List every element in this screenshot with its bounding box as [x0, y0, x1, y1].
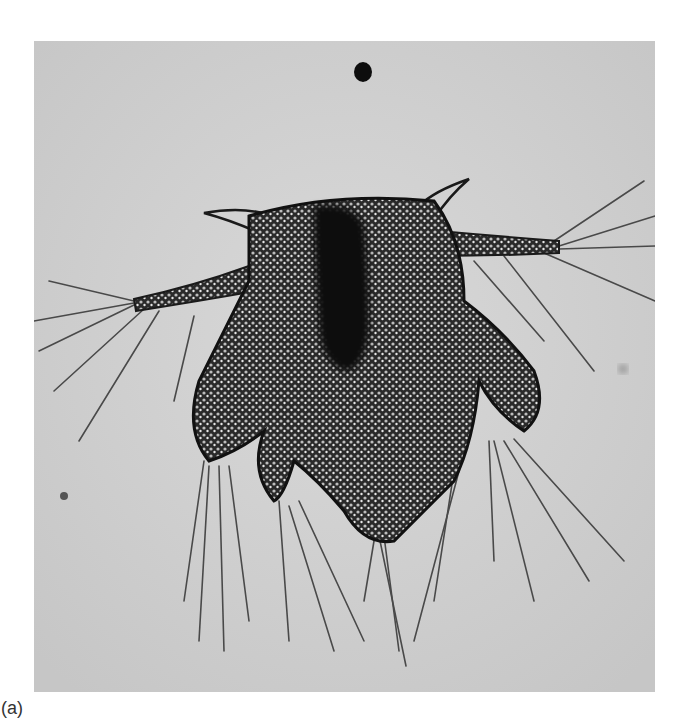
micrograph-photo	[34, 41, 655, 692]
larva-illustration	[34, 41, 655, 692]
particle	[354, 62, 372, 82]
panel-label: (a)	[1, 697, 23, 719]
